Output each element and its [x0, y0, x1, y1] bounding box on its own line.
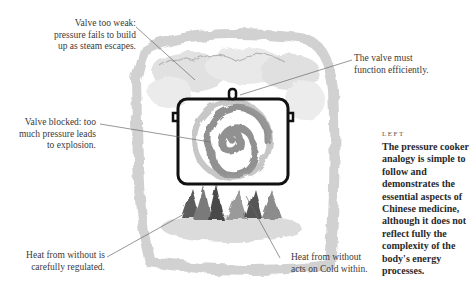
caption-body: The pressure cooker analogy is simple to…: [382, 141, 471, 277]
caption-tag: LEFT: [382, 130, 471, 138]
spiral-icon: [194, 102, 270, 178]
label-valve-too-weak: Valve too weak: pressure fails to build …: [40, 18, 136, 53]
label-valve-blocked: Valve blocked: too much pressure leads t…: [10, 117, 96, 152]
flames: [162, 184, 302, 242]
label-valve-must: The valve must function efficiently.: [354, 53, 454, 76]
figure-caption: LEFT The pressure cooker analogy is simp…: [382, 130, 471, 277]
valve-knob-icon: [229, 89, 236, 99]
label-heat-regulated: Heat from without is carefully regulated…: [10, 250, 105, 273]
